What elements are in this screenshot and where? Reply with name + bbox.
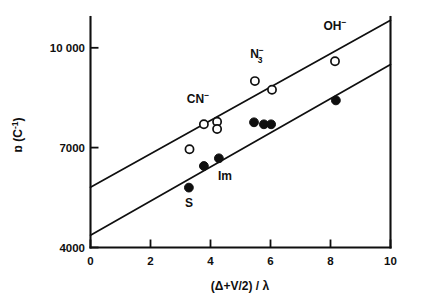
x-axis-title: (Δ+V/2) / λ [211,279,270,293]
data-point-filled-s [185,183,194,192]
data-point-open-cn [200,120,208,128]
upper-fit-line [91,20,391,187]
plot-axes [91,17,391,248]
annotation-n3: N−3 [250,45,264,65]
data-point-open-oh [331,57,339,65]
scatter-plot: 10 000 7000 4000 0 2 4 6 8 10 (Δ+V/2) / … [0,0,422,305]
lower-fit-line [91,64,391,235]
y-axis-ticks [91,48,99,248]
svg-text:ɒ (C-1): ɒ (C-1) [10,118,25,153]
annotation-cn-charge: − [204,90,209,100]
data-point-filled [267,120,276,129]
annotation-n3-count: 3 [258,55,263,65]
data-point-open [268,86,276,94]
annotation-n3-charge: − [259,45,264,55]
point-annotations: CN− N−3 OH− Im S [185,17,347,210]
x-tick-label-2: 2 [147,255,153,267]
annotation-oh-text: OH [324,19,342,33]
x-tick-label-0: 0 [87,255,93,267]
y-axis-symbol: ɒ [11,145,25,152]
data-point-filled [200,162,209,171]
x-tick-label-6: 6 [267,255,273,267]
data-point-filled-im [215,154,224,163]
data-point-open [213,125,221,133]
data-point-open-n3 [251,77,259,85]
fit-lines [91,20,391,235]
y-tick-label-10000: 10 000 [50,42,85,54]
annotation-oh: OH− [324,17,347,33]
filled-circle-series [185,96,341,192]
annotation-oh-charge: − [342,17,347,27]
data-point-filled [332,96,341,105]
y-axis-unit: C [11,129,25,138]
y-axis-title: ɒ (C-1) [10,118,25,153]
annotation-s: S [185,196,193,210]
annotation-cn: CN− [187,90,209,106]
y-tick-label-4000: 4000 [59,242,85,254]
x-tick-label-10: 10 [384,255,397,267]
annotation-cn-text: CN [187,92,204,106]
x-tick-label-4: 4 [207,255,214,267]
x-axis-ticks [91,240,391,248]
y-tick-label-7000: 7000 [59,142,85,154]
y-axis-tick-labels: 10 000 7000 4000 [50,42,85,254]
open-circle-series [185,57,339,153]
x-tick-label-8: 8 [327,255,334,267]
data-point-open [185,145,193,153]
data-point-filled [250,118,259,127]
annotation-im: Im [218,169,232,183]
x-axis-tick-labels: 0 2 4 6 8 10 [87,255,397,267]
y-axis-close-paren: ) [11,118,25,122]
chart-figure: 10 000 7000 4000 0 2 4 6 8 10 (Δ+V/2) / … [0,0,422,305]
